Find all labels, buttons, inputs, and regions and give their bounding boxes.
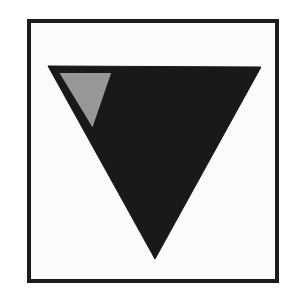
- figure-canvas: Inverted triangle figure A downward-poin…: [0, 0, 299, 302]
- figure-graphic: [0, 0, 299, 302]
